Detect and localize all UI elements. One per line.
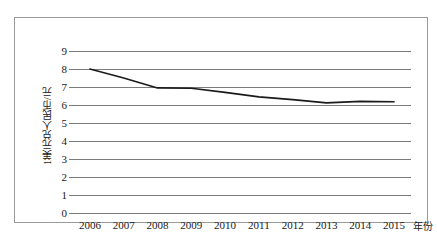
x-axis-tick-label: 2009 xyxy=(180,220,202,231)
y-axis-tick-label: 2 xyxy=(62,172,68,183)
y-axis-tick-label: 7 xyxy=(62,82,68,93)
plot-area: 0123456789 20062007200820092010201120122… xyxy=(73,51,411,213)
series-line-usd-cny xyxy=(90,69,394,103)
x-axis-tick-label: 2011 xyxy=(248,220,270,231)
y-axis-tick-label: 5 xyxy=(62,118,68,129)
y-axis-tick-label: 6 xyxy=(62,100,68,111)
x-axis-tick-label: 2006 xyxy=(79,220,101,231)
y-axis-tick-label: 3 xyxy=(62,154,68,165)
series-line-group xyxy=(73,51,411,213)
x-axis-tick-label: 2015 xyxy=(383,220,405,231)
x-axis-tick-label: 2014 xyxy=(349,220,371,231)
gridline xyxy=(73,213,411,214)
y-axis-tick-label: 9 xyxy=(62,46,68,57)
y-axis-title: 1美元兑人民币/元 xyxy=(41,66,55,186)
x-axis-tick-label: 2010 xyxy=(214,220,236,231)
y-axis-tick-mark xyxy=(69,213,73,214)
chart-figure: 1美元兑人民币/元 年份 0123456789 2006200720082009… xyxy=(0,0,437,237)
y-axis-tick-label: 0 xyxy=(62,208,68,219)
y-axis-tick-label: 8 xyxy=(62,64,68,75)
chart-frame: 1美元兑人民币/元 年份 0123456789 2006200720082009… xyxy=(14,17,428,223)
x-axis-tick-label: 2007 xyxy=(113,220,135,231)
x-axis-tick-label: 2008 xyxy=(147,220,169,231)
y-axis-tick-label: 4 xyxy=(62,136,68,147)
x-axis-tick-label: 2012 xyxy=(282,220,304,231)
x-axis-title: 年份 xyxy=(413,218,433,233)
y-axis-tick-label: 1 xyxy=(62,190,68,201)
x-axis-tick-label: 2013 xyxy=(316,220,338,231)
